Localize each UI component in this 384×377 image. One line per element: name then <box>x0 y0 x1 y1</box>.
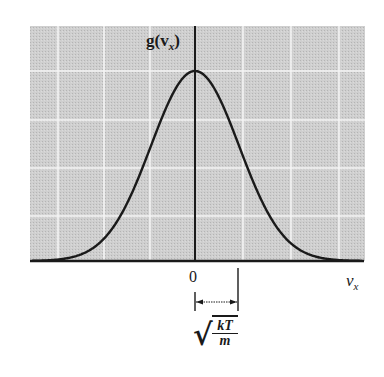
plot-background <box>30 26 365 261</box>
sigma-marker <box>195 268 238 311</box>
fraction-denominator: m <box>212 334 238 348</box>
sigma-label: √ kT m <box>193 314 243 350</box>
x-axis-label: vx <box>346 271 358 292</box>
radical-icon: √ <box>193 320 213 350</box>
origin-label: 0 <box>189 268 197 286</box>
fraction-numerator: kT <box>212 317 238 334</box>
gaussian-plot <box>0 0 384 377</box>
fraction: kT m <box>212 315 238 348</box>
y-axis-label: g(vx) <box>146 31 180 52</box>
